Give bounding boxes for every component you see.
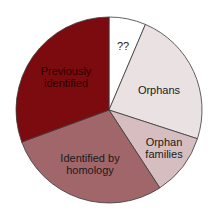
label-orphan-families-line2: families [145, 148, 182, 160]
label-previously-identified: Previously identified [41, 65, 92, 89]
pie-chart [0, 0, 216, 220]
label-unknown-text: ?? [117, 40, 129, 52]
label-unknown: ?? [117, 40, 129, 52]
label-previous-line1: Previously [41, 65, 92, 77]
label-previous-line2: identified [41, 77, 92, 89]
label-orphans: Orphans [138, 84, 180, 96]
label-orphans-text: Orphans [138, 84, 180, 96]
label-homology-line2: homology [60, 164, 119, 176]
label-homology-line1: Identified by [60, 152, 119, 164]
label-orphan-families: Orphan families [145, 136, 182, 160]
label-orphan-families-line1: Orphan [145, 136, 182, 148]
label-homology: Identified by homology [60, 152, 119, 176]
